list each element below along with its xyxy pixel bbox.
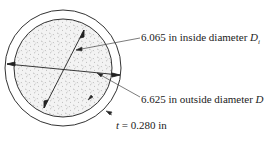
inside-diameter-subscript: i [258,38,260,46]
outside-diameter-symbol: D [256,93,264,105]
inside-diameter-label: 6.065 in inside diameter Di [141,31,260,48]
wall-thickness-label: t = 0.280 in [116,119,167,131]
outside-diameter-label: 6.625 in outside diameter D [141,93,264,105]
inside-diameter-value: 6.065 in inside diameter [141,31,250,43]
outside-diameter-value: 6.625 in outside diameter [141,93,256,105]
thickness-value: = 0.280 in [119,119,167,131]
inner-bore [14,19,112,117]
inside-diameter-symbol: D [250,31,258,43]
